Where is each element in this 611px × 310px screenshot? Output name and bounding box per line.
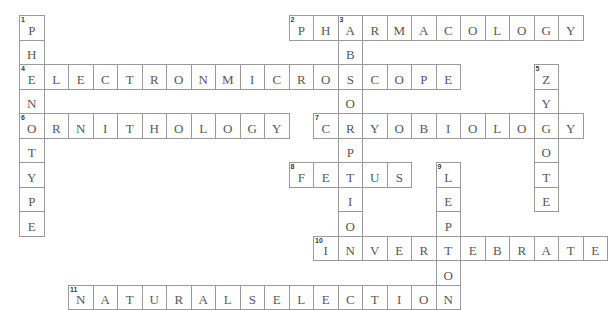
crossword-cell[interactable]: U [362,162,388,188]
crossword-cell[interactable]: 4E [19,64,45,90]
crossword-cell[interactable]: P [19,187,45,213]
crossword-cell[interactable]: E [534,187,560,213]
crossword-cell[interactable]: C [436,15,462,41]
crossword-cell[interactable]: R [142,64,168,90]
crossword-cell[interactable]: L [289,285,315,310]
crossword-cell[interactable]: N [338,236,364,262]
crossword-cell[interactable]: 6O [19,113,45,139]
crossword-cell[interactable]: E [313,285,339,310]
crossword-cell[interactable]: E [19,211,45,237]
crossword-cell[interactable]: Y [558,113,584,139]
crossword-cell[interactable]: I [93,113,119,139]
crossword-cell[interactable]: M [387,15,413,41]
crossword-cell[interactable]: G [534,15,560,41]
crossword-cell[interactable]: C [362,64,388,90]
crossword-cell[interactable]: P [338,138,364,164]
crossword-cell[interactable]: E [436,64,462,90]
crossword-cell[interactable]: N [19,89,45,115]
crossword-cell[interactable]: N [436,285,462,310]
crossword-cell[interactable]: L [215,285,241,310]
crossword-cell[interactable]: O [509,15,535,41]
crossword-cell[interactable]: E [264,285,290,310]
crossword-cell[interactable]: 3A [338,15,364,41]
crossword-cell[interactable]: E [460,236,486,262]
crossword-cell[interactable]: P [411,64,437,90]
crossword-cell[interactable]: R [411,236,437,262]
crossword-cell[interactable]: S [240,285,266,310]
crossword-cell[interactable]: B [411,113,437,139]
crossword-cell[interactable]: T [19,138,45,164]
crossword-cell[interactable]: U [142,285,168,310]
crossword-cell[interactable]: E [313,162,339,188]
crossword-cell[interactable]: T [362,285,388,310]
crossword-cell[interactable]: 9L [436,162,462,188]
crossword-cell[interactable]: C [93,64,119,90]
crossword-cell[interactable]: O [338,89,364,115]
crossword-cell[interactable]: H [142,113,168,139]
crossword-cell[interactable]: O [534,138,560,164]
crossword-cell[interactable]: T [117,285,143,310]
crossword-cell[interactable]: E [583,236,609,262]
crossword-cell[interactable]: 2P [289,15,315,41]
crossword-cell[interactable]: T [534,162,560,188]
crossword-cell[interactable]: E [436,187,462,213]
crossword-cell[interactable]: A [534,236,560,262]
crossword-cell[interactable]: R [338,113,364,139]
crossword-cell[interactable]: L [44,64,70,90]
crossword-cell[interactable]: O [166,113,192,139]
crossword-cell[interactable]: 5Z [534,64,560,90]
crossword-cell[interactable]: O [313,64,339,90]
crossword-cell[interactable]: O [166,64,192,90]
crossword-cell[interactable]: R [44,113,70,139]
crossword-cell[interactable]: R [166,285,192,310]
crossword-cell[interactable]: O [215,113,241,139]
crossword-cell[interactable]: H [19,40,45,66]
crossword-cell[interactable]: O [509,113,535,139]
crossword-cell[interactable]: O [436,260,462,286]
crossword-cell[interactable]: L [485,113,511,139]
crossword-cell[interactable]: N [191,64,217,90]
crossword-cell[interactable]: T [436,236,462,262]
crossword-cell[interactable]: C [338,285,364,310]
crossword-cell[interactable]: O [460,15,486,41]
crossword-cell[interactable]: S [338,64,364,90]
crossword-cell[interactable]: L [485,15,511,41]
crossword-cell[interactable]: G [534,113,560,139]
crossword-cell[interactable]: 1P [19,15,45,41]
crossword-cell[interactable]: V [362,236,388,262]
crossword-cell[interactable]: H [313,15,339,41]
crossword-cell[interactable]: 11N [68,285,94,310]
crossword-cell[interactable]: P [436,211,462,237]
crossword-cell[interactable]: Y [264,113,290,139]
crossword-cell[interactable]: Y [558,15,584,41]
crossword-cell[interactable]: S [387,162,413,188]
crossword-cell[interactable]: R [289,64,315,90]
crossword-cell[interactable]: T [558,236,584,262]
crossword-cell[interactable]: A [411,15,437,41]
crossword-cell[interactable]: I [240,64,266,90]
crossword-cell[interactable]: A [191,285,217,310]
crossword-cell[interactable]: A [93,285,119,310]
crossword-cell[interactable]: O [387,113,413,139]
crossword-cell[interactable]: B [338,40,364,66]
crossword-cell[interactable]: Y [534,89,560,115]
crossword-cell[interactable]: C [264,64,290,90]
crossword-cell[interactable]: Y [362,113,388,139]
crossword-cell[interactable]: R [509,236,535,262]
crossword-cell[interactable]: N [68,113,94,139]
crossword-cell[interactable]: 7C [313,113,339,139]
crossword-cell[interactable]: G [240,113,266,139]
crossword-cell[interactable]: R [362,15,388,41]
crossword-cell[interactable]: I [436,113,462,139]
crossword-cell[interactable]: O [387,64,413,90]
crossword-cell[interactable]: T [338,162,364,188]
crossword-cell[interactable]: 8F [289,162,315,188]
crossword-cell[interactable]: L [191,113,217,139]
crossword-cell[interactable]: E [68,64,94,90]
crossword-cell[interactable]: 10I [313,236,339,262]
crossword-cell[interactable]: M [215,64,241,90]
crossword-cell[interactable]: E [387,236,413,262]
crossword-cell[interactable]: I [338,187,364,213]
crossword-cell[interactable]: Y [19,162,45,188]
crossword-cell[interactable]: O [411,285,437,310]
